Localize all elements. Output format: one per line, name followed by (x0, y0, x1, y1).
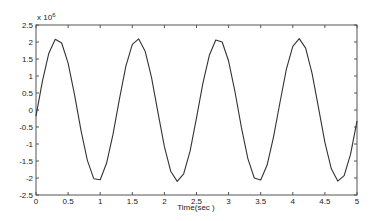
y-tick-label: 0 (29, 106, 34, 115)
y-tick-label: 0.5 (22, 89, 34, 98)
y-axis-tick-labels: 2.521.510.50-0.5-1-1.5-2-2.5 (19, 21, 33, 200)
y-tick-label: 1.5 (22, 55, 34, 64)
y-tick-label: -2 (26, 174, 34, 183)
x-tick-label: 4.5 (319, 197, 331, 206)
x-tick-label: 2 (162, 197, 167, 206)
y-tick-label: -2.5 (19, 191, 33, 200)
y-tick-label: -1 (26, 140, 34, 149)
line-chart: 00.511.522.533.544.55 2.521.510.50-0.5-1… (0, 0, 373, 221)
x-axis-ticks (36, 25, 357, 195)
x-tick-label: 3.5 (255, 197, 267, 206)
x-axis-title: Time(sec ) (177, 203, 215, 212)
y-tick-label: 2.5 (22, 21, 34, 30)
x-tick-label: 1 (98, 197, 103, 206)
plot-frame (36, 25, 357, 195)
data-series-line (36, 39, 357, 182)
x-tick-label: 0 (34, 197, 39, 206)
y-multiplier-label: x 106 (37, 12, 56, 22)
y-tick-label: 2 (29, 38, 34, 47)
y-axis-ticks (36, 25, 357, 195)
y-tick-label: 1 (29, 72, 34, 81)
x-tick-label: 0.5 (63, 197, 75, 206)
x-tick-label: 1.5 (127, 197, 139, 206)
x-tick-label: 5 (355, 197, 360, 206)
y-tick-label: -1.5 (19, 157, 33, 166)
x-tick-label: 3 (226, 197, 231, 206)
y-tick-label: -0.5 (19, 123, 33, 132)
plot-area-border (36, 25, 357, 195)
x-tick-label: 4 (291, 197, 296, 206)
